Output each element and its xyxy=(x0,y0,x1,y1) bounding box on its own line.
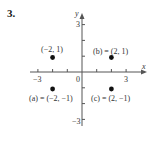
tick-label-y-3: 3 xyxy=(76,20,80,29)
tick-label-x-3: 3 xyxy=(124,75,128,84)
y-axis-arrow-icon xyxy=(80,13,85,19)
y-axis-label: y xyxy=(74,9,79,18)
coordinate-plane: x y −3 0 3 3 −3 (−2, 1) (b) = (2, 1) (a)… xyxy=(0,0,151,141)
point-label-b: (b) = (2, 1) xyxy=(93,47,129,56)
tick-label-y-neg3: −3 xyxy=(72,117,81,126)
tick-label-x-0: 0 xyxy=(76,75,80,84)
point-label-c: (c) = (2, −1) xyxy=(91,94,131,103)
tick-label-x-neg3: −3 xyxy=(33,75,42,84)
point-neg2-1 xyxy=(50,55,55,60)
point-label-a: (a) = (−2, −1) xyxy=(29,94,73,103)
point-label-neg2-1: (−2, 1) xyxy=(41,45,63,54)
point-a-neg2-neg1 xyxy=(50,87,55,92)
point-c-2-neg1 xyxy=(109,87,114,92)
x-axis-label: x xyxy=(141,62,146,71)
